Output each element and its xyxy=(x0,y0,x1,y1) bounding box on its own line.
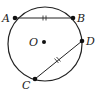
label-o: O xyxy=(29,36,38,49)
label-c: C xyxy=(22,79,31,92)
circle-diagram: A B D C O xyxy=(0,0,95,93)
label-b: B xyxy=(76,12,85,25)
center-point-o xyxy=(42,40,46,44)
point-a xyxy=(13,16,18,21)
point-b xyxy=(71,16,76,21)
point-d xyxy=(80,39,85,44)
point-c xyxy=(33,77,38,82)
label-a: A xyxy=(1,12,10,25)
chord-cd xyxy=(35,41,82,79)
label-d: D xyxy=(85,35,95,48)
